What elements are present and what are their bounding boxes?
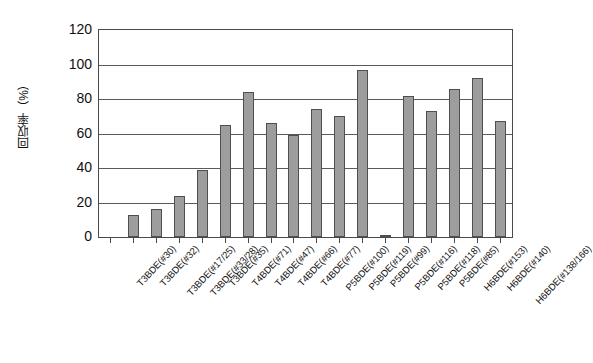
x-axis-tick-labels: T3BDE(#30)T3BDE(#32)T3BDE(#17/25)T3BDE(#…	[99, 243, 512, 361]
bar-slot	[305, 30, 328, 237]
bar-T4BDE(#47)	[243, 92, 254, 237]
bar-series	[99, 30, 512, 237]
bar-slot	[489, 30, 512, 237]
bar-P5BDE(#99)	[357, 70, 368, 237]
bar-slot	[374, 30, 397, 237]
bar-P5BDE(#85)	[426, 111, 437, 237]
bar-T4BDE(#66)	[266, 123, 277, 237]
y-tick-label-20: 20	[46, 194, 92, 210]
bar-P5BDE(#100)	[311, 109, 322, 237]
bar-slot	[260, 30, 283, 237]
y-tick-label-80: 80	[46, 90, 92, 106]
bar-slot	[122, 30, 145, 237]
y-axis-tick-labels: 020406080100120	[44, 29, 92, 238]
bar-H6BDE(#138/166)	[495, 121, 506, 237]
bar-T3BDE(#33/28)	[174, 196, 185, 237]
bar-slot	[214, 30, 237, 237]
bar-slot	[443, 30, 466, 237]
bar-slot	[145, 30, 168, 237]
bar-slot	[168, 30, 191, 237]
bar-slot	[351, 30, 374, 237]
bar-P5BDE(#118)	[403, 96, 414, 237]
bar-slot	[466, 30, 489, 237]
bar-slot	[237, 30, 260, 237]
y-axis-title: 回収率（%）	[18, 78, 40, 149]
bar-T4BDE(#77)	[288, 135, 299, 237]
y-tick-label-0: 0	[46, 228, 92, 244]
bar-T3BDE(#32)	[128, 215, 139, 237]
bar-T3BDE(#17/25)	[151, 209, 162, 237]
bar-P5BDE(#116)	[380, 235, 391, 237]
bar-T4BDE(#71)	[220, 125, 231, 237]
y-tick-label-100: 100	[46, 56, 92, 72]
bar-H6BDE(#140)	[472, 78, 483, 237]
bar-slot	[191, 30, 214, 237]
y-tick-label-120: 120	[46, 21, 92, 37]
y-tick-label-60: 60	[46, 125, 92, 141]
bar-H6BDE(#153)	[449, 89, 460, 237]
y-tick-label-40: 40	[46, 159, 92, 175]
bar-slot	[420, 30, 443, 237]
bar-T3BDE(#35)	[197, 170, 208, 237]
bar-slot	[283, 30, 306, 237]
bar-slot	[99, 30, 122, 237]
bar-slot	[328, 30, 351, 237]
bar-P5BDE(#119)	[334, 116, 345, 237]
bar-slot	[397, 30, 420, 237]
